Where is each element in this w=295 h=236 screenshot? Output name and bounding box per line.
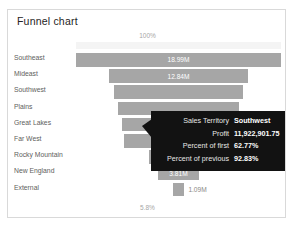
- percent-last-label: 5.8%: [8, 204, 286, 211]
- page-artifact: [42, 224, 162, 232]
- tooltip-value: Southwest: [234, 116, 270, 125]
- funnel-bar-row[interactable]: [76, 84, 281, 100]
- tooltip-key: Percent of first: [151, 141, 234, 150]
- funnel-bar[interactable]: 18.99M: [76, 53, 281, 67]
- plot-area: 100% Southeast Mideast Southwest Plains …: [8, 32, 286, 217]
- category-label[interactable]: New England: [14, 163, 76, 179]
- bar-value-label: 1.09M: [188, 186, 206, 193]
- category-label[interactable]: Southeast: [14, 50, 76, 66]
- category-label[interactable]: Great Lakes: [14, 115, 76, 131]
- bar-value-label: 18.99M: [168, 56, 190, 63]
- category-label[interactable]: Rocky Mountain: [14, 147, 76, 163]
- data-point-tooltip: Sales TerritorySouthwestProfit11,922,901…: [151, 111, 286, 171]
- funnel-bar[interactable]: [114, 85, 243, 99]
- tooltip-key: Sales Territory: [151, 116, 234, 125]
- tooltip-row: Profit11,922,901.75: [151, 129, 286, 142]
- category-label[interactable]: Plains: [14, 99, 76, 115]
- tooltip-row: Percent of first62.77%: [151, 141, 286, 154]
- tooltip-key: Profit: [151, 129, 234, 138]
- category-label[interactable]: Southwest: [14, 82, 76, 98]
- funnel-top-rail: [76, 42, 281, 49]
- funnel-bar-row[interactable]: 12.84M: [76, 68, 281, 84]
- category-label[interactable]: Mideast: [14, 66, 76, 82]
- tooltip-key: Percent of previous: [151, 154, 234, 163]
- category-label[interactable]: External: [14, 180, 76, 196]
- tooltip-row: Percent of previous92.83%: [151, 154, 286, 167]
- percent-first-label: 100%: [8, 32, 286, 39]
- tooltip-row: Sales TerritorySouthwest: [151, 116, 286, 129]
- tooltip-value: 11,922,901.75: [234, 129, 280, 138]
- category-axis: Southeast Mideast Southwest Plains Great…: [14, 50, 76, 196]
- funnel-bar-row[interactable]: 18.99M: [76, 52, 281, 68]
- funnel-bar[interactable]: 1.09M: [173, 183, 185, 197]
- tooltip-value: 62.77%: [234, 141, 258, 150]
- bar-value-label: 12.84M: [167, 73, 189, 80]
- funnel-bar-row[interactable]: 1.09M: [76, 182, 281, 198]
- tooltip-rows: Sales TerritorySouthwestProfit11,922,901…: [151, 116, 286, 166]
- funnel-chart-visual[interactable]: Funnel chart 100% Southeast Mideast Sout…: [7, 9, 286, 218]
- category-label[interactable]: Far West: [14, 131, 76, 147]
- chart-title: Funnel chart: [17, 15, 78, 27]
- tooltip-value: 92.83%: [234, 154, 258, 163]
- funnel-bar[interactable]: 12.84M: [109, 69, 248, 83]
